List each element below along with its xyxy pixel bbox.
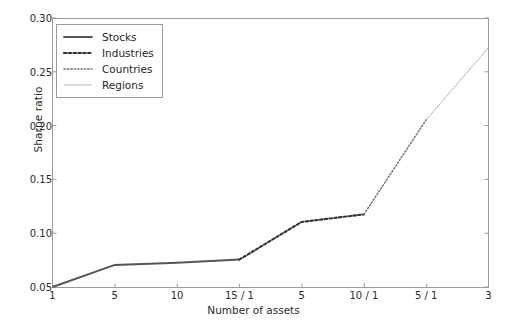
legend-item-countries[interactable]: Countries xyxy=(63,61,154,77)
legend-item-industries[interactable]: Industries xyxy=(63,45,154,61)
y-tick-label: 0.05 xyxy=(12,282,52,293)
line-dotted-icon xyxy=(63,63,93,75)
chart-legend: StocksIndustriesCountriesRegions xyxy=(56,24,163,98)
series-line-regions xyxy=(426,48,488,120)
x-tick-label: 15 / 1 xyxy=(225,290,254,301)
legend-item-stocks[interactable]: Stocks xyxy=(63,29,154,45)
series-line-industries xyxy=(239,214,364,259)
legend-item-label: Countries xyxy=(102,63,152,75)
x-tick-label: 10 xyxy=(171,290,184,301)
line-solid-icon xyxy=(63,31,93,43)
y-tick-label: 0.10 xyxy=(12,228,52,239)
legend-item-label: Industries xyxy=(102,47,154,59)
series-line-stocks xyxy=(53,260,240,287)
x-tick-label: 5 xyxy=(298,290,304,301)
y-tick-label: 0.20 xyxy=(12,120,52,131)
y-tick-label: 0.15 xyxy=(12,174,52,185)
y-tick-label: 0.25 xyxy=(12,66,52,77)
legend-item-regions[interactable]: Regions xyxy=(63,77,154,93)
chart-figure: Sharpe ratio Number of assets 151015 / 1… xyxy=(0,0,507,327)
legend-item-label: Regions xyxy=(102,79,143,91)
line-fine-dotted-icon xyxy=(63,79,93,91)
x-axis-title: Number of assets xyxy=(0,304,507,316)
y-tick-label: 0.30 xyxy=(12,13,52,24)
x-tick-label: 3 xyxy=(485,290,491,301)
x-tick-marks xyxy=(53,284,489,288)
legend-item-label: Stocks xyxy=(102,31,137,43)
series-line-countries xyxy=(364,120,426,215)
x-tick-label: 5 xyxy=(112,290,118,301)
x-tick-label: 5 / 1 xyxy=(415,290,437,301)
line-dashed-icon xyxy=(63,47,93,59)
x-tick-label: 10 / 1 xyxy=(349,290,378,301)
